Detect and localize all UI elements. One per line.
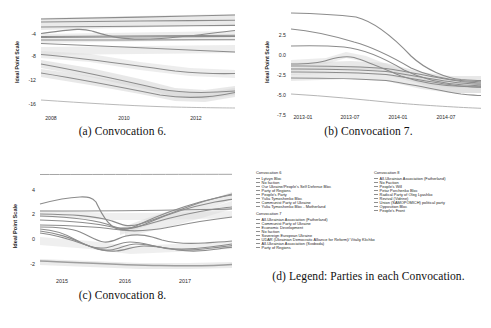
legend-swatch-icon: [374, 182, 378, 183]
legend-list-convocation-7: All-Ukrainian Association (Fatherland) C…: [256, 218, 368, 250]
legend-swatch-icon: [256, 206, 260, 207]
legend-item: Party of Regions: [256, 246, 368, 250]
legend-swatch-icon: [256, 243, 260, 244]
caption-d: (d) Legend: Parties in each Convocation.: [246, 270, 491, 282]
legend-column-left: Convocation 6 Lytvyn Bloc No faction Our…: [256, 170, 368, 262]
chart-b-y-axis-ticklabels: 2.5 0.0 -2.5 -5.0 -7.5: [277, 32, 286, 118]
legend-item-label: Yulia Tymoshenko Bloc - Motherland: [262, 205, 326, 209]
chart-b-svg: 2.5 0.0 -2.5 -5.0 -7.5 2013-01 2013-07 2…: [246, 0, 491, 122]
legend-swatch-icon: [256, 223, 260, 224]
legend-swatch-icon: [374, 186, 378, 187]
panel-convocation-8: 4 2 0 -2 2015 2016 2017 Ideal Point Scal…: [0, 164, 245, 328]
x-tick-c-0: 2015: [56, 278, 68, 284]
legend-swatch-icon: [256, 202, 260, 203]
legend-title-convocation-6: Convocation 6: [256, 170, 368, 175]
x-tick-a-1: 2010: [118, 115, 130, 121]
y-tick-c-2: 0: [32, 236, 35, 242]
chart-a-y-axis-ticklabels: -4 -8 -12 -16: [29, 31, 37, 107]
legend-swatch-icon: [256, 182, 260, 183]
y-axis-label-c: Ideal Point Scale: [12, 204, 18, 248]
y-tick-b-2: -2.5: [277, 72, 286, 78]
x-tick-c-2: 2017: [179, 278, 191, 284]
y-tick-c-3: -2: [30, 261, 35, 267]
y-tick-b-3: -5.0: [277, 92, 286, 98]
legend-item-label: People's Front: [380, 209, 405, 213]
y-tick-a-1: -8: [31, 53, 36, 59]
legend-swatch-icon: [374, 198, 378, 199]
legend-swatch-icon: [374, 206, 378, 207]
chart-a-x-axis-ticklabels: 2008 2010 2012: [45, 115, 202, 121]
legend-swatch-icon: [374, 202, 378, 203]
y-tick-b-1: 0.0: [279, 52, 286, 58]
legend-swatch-icon: [256, 247, 260, 248]
chart-c-svg: 4 2 0 -2 2015 2016 2017 Ideal Point Scal…: [0, 164, 245, 286]
x-tick-a-2: 2012: [190, 115, 202, 121]
caption-c: (c) Convocation 8.: [0, 289, 245, 301]
panel-convocation-6: -4 -8 -12 -16 2008 2010 2012 Ideal Point…: [0, 0, 245, 164]
figure-ideal-point-scales: -4 -8 -12 -16 2008 2010 2012 Ideal Point…: [0, 0, 491, 328]
legend-swatch-icon: [374, 178, 378, 179]
legend-column-right: Convocation 8 All-Ukrainian Association …: [374, 170, 482, 262]
panel-convocation-7: 2.5 0.0 -2.5 -5.0 -7.5 2013-01 2013-07 2…: [246, 0, 491, 164]
chart-b-x-axis-ticklabels: 2013-01 2013-07 2014-01 2014-07: [293, 114, 455, 120]
x-tick-b-3: 2014-07: [436, 114, 455, 120]
legend-list-convocation-6: Lytvyn Bloc No faction Our Ukraine/Peopl…: [256, 177, 368, 209]
y-axis-label-b: Ideal Point Scale: [264, 41, 270, 83]
caption-a: (a) Convocation 6.: [0, 125, 245, 137]
chart-c-x-axis-ticklabels: 2015 2016 2017: [56, 278, 191, 284]
legend-list-convocation-8: All-Ukrainian Association (Fatherland) N…: [374, 177, 482, 213]
legend-swatch-icon: [374, 190, 378, 191]
y-tick-c-1: 2: [32, 211, 35, 217]
plot-area-c: 4 2 0 -2 2015 2016 2017 Ideal Point Scal…: [0, 164, 245, 286]
y-tick-a-0: -4: [31, 31, 36, 37]
legend-title-convocation-8: Convocation 8: [374, 170, 482, 175]
x-tick-a-0: 2008: [45, 115, 57, 121]
legend-swatch-icon: [374, 194, 378, 195]
y-tick-a-2: -12: [29, 77, 37, 83]
panel-legend: Convocation 6 Lytvyn Bloc No faction Our…: [246, 164, 491, 328]
x-tick-b-2: 2014-01: [388, 114, 407, 120]
plot-area-a: -4 -8 -12 -16 2008 2010 2012 Ideal Point…: [0, 0, 245, 122]
y-tick-c-0: 4: [32, 187, 35, 193]
legend-swatch-icon: [256, 198, 260, 199]
legend-swatch-icon: [256, 235, 260, 236]
legend-item-label: Party of Regions: [262, 246, 291, 250]
legend-swatch-icon: [256, 239, 260, 240]
legend-swatch-icon: [256, 231, 260, 232]
x-tick-b-0: 2013-01: [293, 114, 312, 120]
legend-title-convocation-7: Convocation 7: [256, 211, 368, 216]
x-tick-b-1: 2013-07: [340, 114, 359, 120]
plot-area-b: 2.5 0.0 -2.5 -5.0 -7.5 2013-01 2013-07 2…: [246, 0, 491, 122]
legend-container: Convocation 6 Lytvyn Bloc No faction Our…: [256, 170, 482, 262]
y-tick-a-3: -16: [29, 101, 37, 107]
legend-swatch-icon: [256, 186, 260, 187]
legend-swatch-icon: [256, 194, 260, 195]
legend-item: People's Front: [374, 209, 482, 213]
legend-item: Yulia Tymoshenko Bloc - Motherland: [256, 205, 368, 209]
chart-a-svg: -4 -8 -12 -16 2008 2010 2012 Ideal Point…: [0, 0, 245, 122]
chart-c-y-axis-ticklabels: 4 2 0 -2: [30, 187, 35, 267]
y-axis-label-a: Ideal Point Scale: [14, 41, 20, 83]
legend-swatch-icon: [256, 227, 260, 228]
legend-swatch-icon: [256, 190, 260, 191]
y-tick-b-0: 2.5: [279, 32, 286, 38]
legend-swatch-icon: [374, 210, 378, 211]
y-tick-b-4: -7.5: [277, 112, 286, 118]
x-tick-c-1: 2016: [119, 278, 131, 284]
legend-swatch-icon: [256, 219, 260, 220]
caption-b: (b) Convocation 7.: [246, 125, 491, 137]
legend-swatch-icon: [256, 178, 260, 179]
